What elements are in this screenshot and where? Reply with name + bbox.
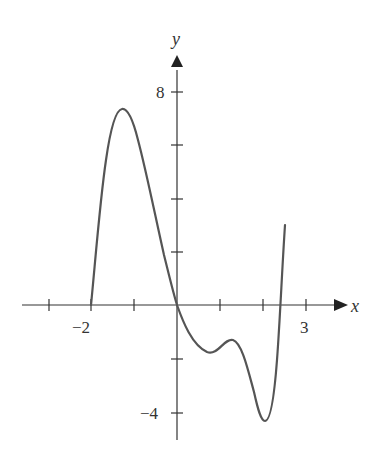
- x-axis-arrow-icon: [334, 299, 348, 311]
- x-tick-label-3: 3: [300, 318, 309, 337]
- x-tick-label-neg2: −2: [72, 318, 90, 337]
- y-axis-label: y: [170, 29, 180, 49]
- function-graph: x y −2 3 8 −4: [0, 0, 372, 466]
- y-tick-label-neg4: −4: [140, 404, 159, 423]
- x-axis-label: x: [350, 296, 359, 316]
- function-curve: [91, 109, 285, 421]
- y-axis-arrow-icon: [171, 55, 183, 67]
- y-tick-label-8: 8: [156, 83, 165, 102]
